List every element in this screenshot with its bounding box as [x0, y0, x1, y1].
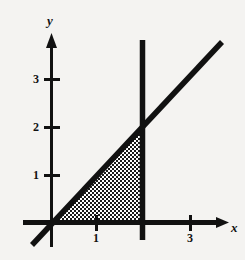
- y-tick-label-2: 2: [30, 121, 42, 133]
- x-tick-label-3: 3: [184, 232, 196, 244]
- x-axis-label: x: [231, 221, 238, 234]
- x-tick-label-1: 1: [90, 232, 102, 244]
- y-axis-label: y: [47, 14, 53, 27]
- graph-figure: y x 1 2 3 1 3: [0, 0, 245, 260]
- x-axis-arrowhead: [216, 217, 229, 228]
- y-tick-label-1: 1: [30, 169, 42, 181]
- y-axis-arrowhead: [46, 33, 57, 48]
- y-tick-label-3: 3: [30, 73, 42, 85]
